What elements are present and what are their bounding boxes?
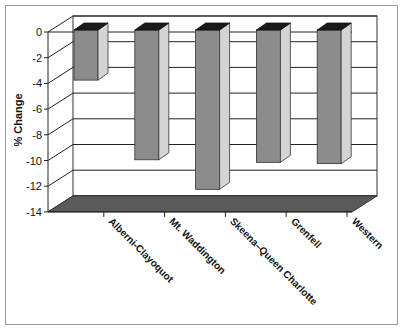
bar	[135, 23, 169, 160]
bar-side	[280, 23, 290, 162]
gridline-depth	[48, 170, 73, 186]
bar-front	[135, 30, 159, 160]
bar-side	[98, 23, 108, 80]
x-axis: Alberni-ClayoquotMt. WaddingtonSkeena–Qu…	[48, 212, 385, 307]
bar-front	[74, 30, 98, 80]
x-category-label: Western	[350, 216, 386, 252]
y-axis-title: % Change	[12, 93, 24, 146]
bar-front	[317, 30, 341, 164]
chart-floor	[48, 196, 377, 212]
gridline-depth	[48, 93, 73, 109]
x-category-label: Mt. Waddington	[167, 216, 228, 277]
bar-chart: 0-2-4-6-8-10-12-14 Alberni-ClayoquotMt. …	[0, 0, 405, 331]
y-tick-label: 0	[36, 26, 42, 38]
y-tick-label: -12	[26, 180, 42, 192]
y-tick-label: -14	[26, 206, 42, 218]
x-category-label: Grenfell	[289, 216, 324, 251]
y-tick-label: -6	[32, 103, 42, 115]
gridline-depth	[48, 119, 73, 135]
bar-front	[196, 30, 220, 189]
gridline-depth	[48, 67, 73, 83]
y-tick-label: -8	[32, 129, 42, 141]
x-category-label: Alberni-Clayoquot	[107, 216, 177, 286]
bar-side	[159, 23, 169, 160]
bar-side	[220, 23, 230, 189]
bar	[196, 23, 230, 189]
floor-plane	[48, 196, 377, 212]
bar-front	[256, 30, 280, 162]
gridline-depth	[48, 16, 73, 32]
bar	[74, 23, 108, 80]
y-tick-label: -10	[26, 155, 42, 167]
gridline-depth	[48, 42, 73, 58]
y-tick-label: -4	[32, 77, 42, 89]
gridline-depth	[48, 145, 73, 161]
bar	[317, 23, 351, 164]
bar-side	[341, 23, 351, 164]
y-tick-label: -2	[32, 52, 42, 64]
bar	[256, 23, 290, 162]
